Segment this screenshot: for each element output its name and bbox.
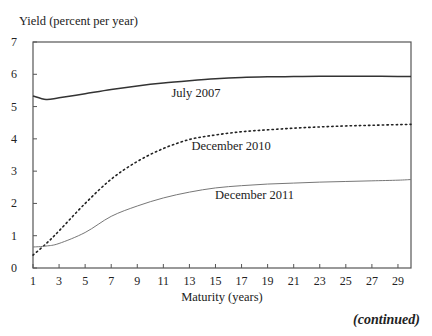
x-tick-label: 15 bbox=[209, 274, 221, 288]
x-tick-label: 3 bbox=[56, 274, 62, 288]
series-annotations: July 2007December 2010December 2011 bbox=[171, 86, 294, 202]
y-tick-label: 0 bbox=[11, 261, 17, 275]
y-tick-label: 6 bbox=[11, 67, 17, 81]
series-line-july-2007 bbox=[33, 76, 411, 99]
x-tick-label: 19 bbox=[262, 274, 274, 288]
y-tick-label: 7 bbox=[11, 35, 17, 49]
x-tick-label: 29 bbox=[392, 274, 404, 288]
series-label: July 2007 bbox=[171, 86, 220, 100]
yield-curve-chart: 01234567 1357911131517192123252729 July … bbox=[0, 0, 432, 336]
continued-note: (continued) bbox=[353, 312, 420, 328]
y-tick-label: 5 bbox=[11, 100, 17, 114]
series-lines bbox=[33, 76, 411, 255]
y-tick-label: 2 bbox=[11, 196, 17, 210]
x-tick-label: 17 bbox=[236, 274, 248, 288]
x-tick-label: 11 bbox=[158, 274, 170, 288]
x-tick-label: 21 bbox=[288, 274, 300, 288]
x-tick-label: 13 bbox=[183, 274, 195, 288]
series-label: December 2010 bbox=[191, 139, 270, 153]
x-tick-label: 23 bbox=[314, 274, 326, 288]
x-tick-label: 9 bbox=[134, 274, 140, 288]
series-label: December 2011 bbox=[215, 188, 294, 202]
x-axis-title: Maturity (years) bbox=[0, 290, 432, 305]
x-tick-label: 7 bbox=[108, 274, 114, 288]
y-tick-label: 1 bbox=[11, 229, 17, 243]
x-tick-label: 25 bbox=[340, 274, 352, 288]
x-tick-label: 5 bbox=[82, 274, 88, 288]
x-tick-label: 1 bbox=[30, 274, 36, 288]
x-tick-label: 27 bbox=[366, 274, 378, 288]
y-tick-label: 3 bbox=[11, 164, 17, 178]
y-tick-label: 4 bbox=[11, 132, 17, 146]
